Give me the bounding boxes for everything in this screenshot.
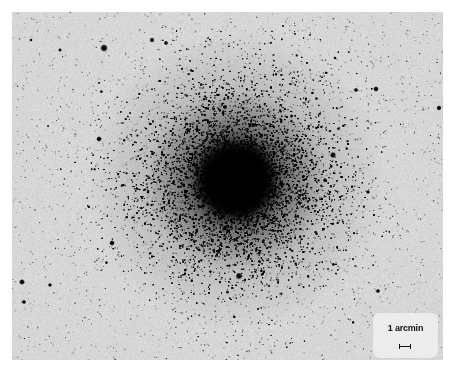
scale-bar-icon [399,344,411,349]
star-field-image [12,12,443,360]
scale-bar-cap-right [410,344,411,349]
scale-bar-legend: 1 arcmin [373,313,438,358]
cluster-photograph: 1 arcmin [12,12,443,360]
scale-bar-label: 1 arcmin [373,323,438,334]
